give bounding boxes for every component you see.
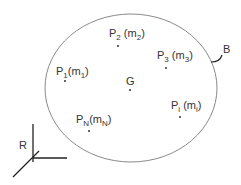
particle-label-pn: PN(mN) <box>76 114 111 125</box>
point-subscript: i <box>178 105 180 114</box>
point-subscript: 1 <box>63 71 67 80</box>
body-name: B <box>223 43 230 55</box>
body-label-b: B <box>223 44 230 55</box>
particle-dot-pn <box>88 130 90 132</box>
particle-label-p3: P3 (m3) <box>157 50 193 61</box>
mass-subscript: 1 <box>81 71 85 80</box>
center-of-mass-name: G <box>126 75 135 87</box>
center-of-mass-dot <box>129 89 131 91</box>
reference-frame-name: R <box>19 139 27 151</box>
particle-dot-pi <box>179 116 181 118</box>
mass-name: m <box>176 49 185 61</box>
mass-name: m <box>128 27 137 39</box>
reference-frame-label: R <box>19 140 27 151</box>
particle-dot-p2 <box>117 45 119 47</box>
mass-subscript: N <box>102 119 108 128</box>
point-subscript: 3 <box>164 55 168 64</box>
point-subscript: 2 <box>116 33 120 42</box>
particle-label-p2: P2 (m2) <box>109 28 145 39</box>
particle-dot-p3 <box>165 67 167 69</box>
body-label-leader <box>211 55 222 62</box>
frame-axis-oblique <box>13 151 39 177</box>
particle-label-p1: P1(m1) <box>56 66 89 77</box>
center-of-mass-label: G <box>126 76 135 87</box>
mass-subscript: 2 <box>137 33 141 42</box>
mass-name: m <box>93 113 102 125</box>
mass-name: m <box>71 65 80 77</box>
point-subscript: N <box>83 119 89 128</box>
mass-name: m <box>187 99 196 111</box>
particle-label-pi: Pi (mi) <box>171 100 201 111</box>
mass-subscript: i <box>196 105 198 114</box>
mass-subscript: 3 <box>185 55 189 64</box>
particle-dot-p1 <box>64 80 66 82</box>
